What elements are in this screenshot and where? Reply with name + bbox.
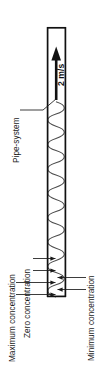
zero-concentration-leader-icon — [33, 259, 56, 271]
minimum-concentration-leader-icon — [58, 278, 87, 290]
label-pipe-system: Pipe-system — [13, 117, 21, 163]
label-flow-velocity: 2 m/s — [57, 64, 66, 86]
label-zero-concentration: Zero concentration — [24, 269, 32, 338]
label-maximum-concentration: Maximum concentration — [9, 274, 17, 362]
pipe-concentration-figure: Maximum concentration Zero concentration… — [0, 0, 106, 368]
pipe-system-leader-line-icon — [20, 99, 56, 110]
concentration-helix — [48, 102, 65, 297]
maximum-concentration-leader-icon — [16, 283, 56, 295]
label-minimum-concentration: Minimum concentration — [88, 275, 96, 361]
